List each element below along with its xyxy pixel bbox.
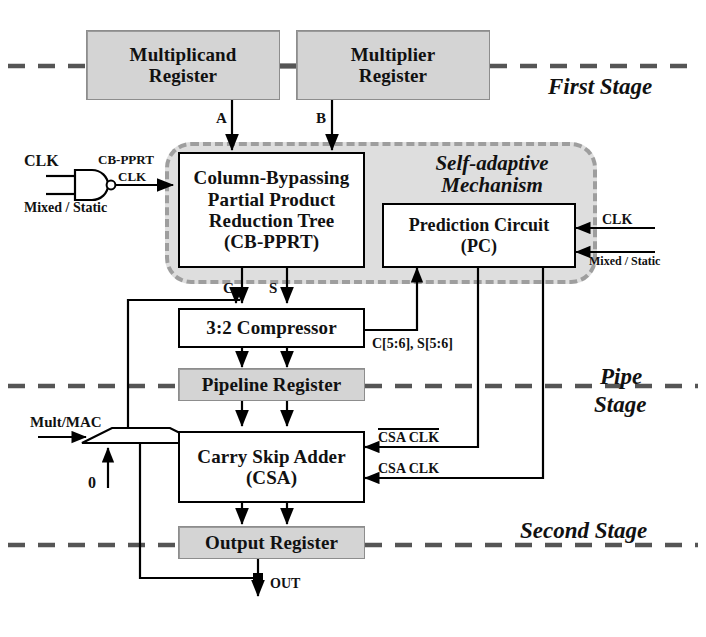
block-csa[interactable]: Carry Skip Adder (CSA): [178, 431, 365, 503]
multiplicand-register-line2: Register: [130, 65, 237, 86]
cb-pprt-line3: Reduction Tree: [194, 210, 350, 231]
stage-label-first: First Stage: [548, 74, 652, 100]
label-s: S: [269, 280, 277, 297]
block-multiplier-register[interactable]: Multiplier Register: [296, 30, 490, 100]
stage-label-pipe-line2: Stage: [594, 392, 646, 418]
label-cs-bits: C[5:6], S[5:6]: [372, 336, 453, 352]
wire-cs-bits: [365, 272, 417, 330]
label-mixed-static-left: Mixed / Static: [24, 200, 107, 216]
multiplicand-register-line1: Multiplicand: [130, 44, 237, 65]
junction-dot: [253, 573, 263, 583]
label-mux-zero: 0: [88, 474, 96, 492]
label-mixed-static-right: Mixed / Static: [589, 254, 660, 269]
csa-line2: (CSA): [197, 467, 345, 488]
block-cb-pprt[interactable]: Column-Bypassing Partial Product Reducti…: [178, 152, 365, 268]
block-prediction-circuit[interactable]: Prediction Circuit (PC): [382, 203, 576, 268]
block-compressor[interactable]: 3:2 Compressor: [178, 308, 365, 348]
label-cb-pprt-clk-line2: CLK: [118, 169, 146, 185]
multiplier-register-line2: Register: [351, 65, 435, 86]
stage-label-pipe-line1: Pipe: [600, 364, 642, 390]
label-out: OUT: [270, 576, 300, 592]
stage-label-second: Second Stage: [520, 518, 647, 544]
cb-pprt-line4: (CB-PPRT): [194, 231, 350, 252]
label-mult-mac: Mult/MAC: [30, 414, 102, 431]
label-clk-gate-input: CLK: [24, 152, 59, 170]
output-register-label: Output Register: [205, 532, 338, 553]
label-cb-pprt-clk-line1: CB-PPRT: [98, 152, 154, 168]
label-clk-pc: CLK: [602, 212, 632, 228]
compressor-label: 3:2 Compressor: [206, 317, 336, 338]
cb-pprt-line2: Partial Product: [194, 189, 350, 210]
block-multiplicand-register[interactable]: Multiplicand Register: [86, 30, 280, 100]
block-diagram-canvas: Self-adaptive Mechanism: [0, 0, 706, 637]
label-csa-clk: CSA CLK: [378, 461, 439, 477]
prediction-circuit-line1: Prediction Circuit: [409, 215, 550, 235]
csa-clk-bar-text: CSA CLK: [378, 430, 439, 446]
wire-csa-clk-bar: [372, 268, 478, 447]
multiplier-register-line1: Multiplier: [351, 44, 435, 65]
nand-gate-shape: [46, 170, 173, 200]
label-a: A: [216, 110, 227, 127]
pipeline-register-label: Pipeline Register: [202, 374, 341, 395]
label-c: C: [223, 280, 234, 297]
prediction-circuit-line2: (PC): [409, 236, 550, 256]
label-csa-clk-bar: CSA CLK: [378, 430, 439, 446]
label-b: B: [316, 110, 326, 127]
block-output-register[interactable]: Output Register: [178, 526, 365, 559]
csa-line1: Carry Skip Adder: [197, 446, 345, 467]
block-pipeline-register[interactable]: Pipeline Register: [178, 368, 365, 401]
cb-pprt-line1: Column-Bypassing: [194, 167, 350, 188]
